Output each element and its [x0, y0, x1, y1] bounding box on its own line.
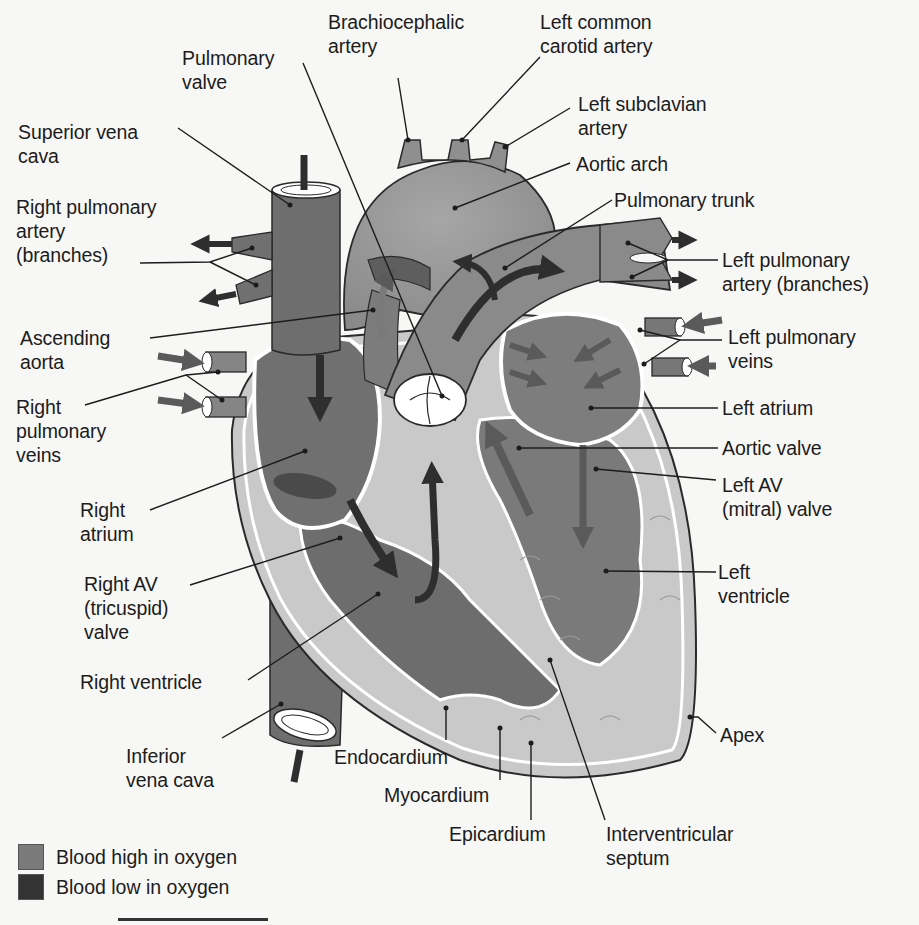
label-left-atrium: Left atrium — [722, 396, 813, 420]
label-epicardium: Epicardium — [449, 822, 546, 846]
label-right-pulmonary-artery: Right pulmonary artery (branches) — [16, 195, 157, 267]
label-inferior-vena-cava: Inferior vena cava — [126, 744, 214, 792]
label-right-av-valve: Right AV (tricuspid) valve — [84, 572, 169, 644]
label-left-av-valve: Left AV (mitral) valve — [722, 473, 832, 521]
legend: Blood high in oxygen Blood low in oxygen — [18, 842, 237, 902]
legend-item-high-oxygen: Blood high in oxygen — [18, 842, 237, 872]
label-aortic-valve: Aortic valve — [722, 436, 822, 460]
label-left-common-carotid-artery: Left common carotid artery — [540, 10, 652, 58]
divider — [118, 918, 268, 921]
label-right-ventricle: Right ventricle — [80, 670, 202, 694]
label-right-atrium: Right atrium — [80, 498, 134, 546]
superior-vena-cava — [272, 155, 340, 355]
left-pulmonary-veins — [645, 318, 722, 376]
label-interventricular-septum: Interventricular septum — [606, 822, 733, 870]
label-left-pulmonary-veins: Left pulmonary veins — [728, 325, 856, 373]
swatch-low-oxygen-icon — [18, 874, 44, 900]
label-left-ventricle: Left ventricle — [718, 560, 790, 608]
label-pulmonary-valve: Pulmonary valve — [182, 46, 274, 94]
swatch-high-oxygen-icon — [18, 844, 44, 870]
right-pulmonary-veins — [158, 352, 246, 417]
label-myocardium: Myocardium — [384, 783, 489, 807]
label-right-pulmonary-veins: Right pulmonary veins — [16, 395, 106, 467]
label-endocardium: Endocardium — [334, 745, 448, 769]
legend-item-low-oxygen: Blood low in oxygen — [18, 872, 237, 902]
label-aortic-arch: Aortic arch — [576, 152, 668, 176]
label-brachiocephalic-artery: Brachiocephalic artery — [328, 10, 464, 58]
label-apex: Apex — [720, 723, 764, 747]
legend-label: Blood low in oxygen — [56, 876, 229, 899]
label-superior-vena-cava: Superior vena cava — [18, 120, 138, 168]
left-atrium — [501, 314, 643, 445]
label-ascending-aorta: Ascending aorta — [20, 326, 110, 374]
label-pulmonary-trunk: Pulmonary trunk — [614, 188, 754, 212]
legend-label: Blood high in oxygen — [56, 846, 237, 869]
label-left-subclavian-artery: Left subclavian artery — [578, 92, 707, 140]
right-pulmonary-artery — [198, 232, 272, 304]
label-left-pulmonary-artery: Left pulmonary artery (branches) — [722, 248, 869, 296]
